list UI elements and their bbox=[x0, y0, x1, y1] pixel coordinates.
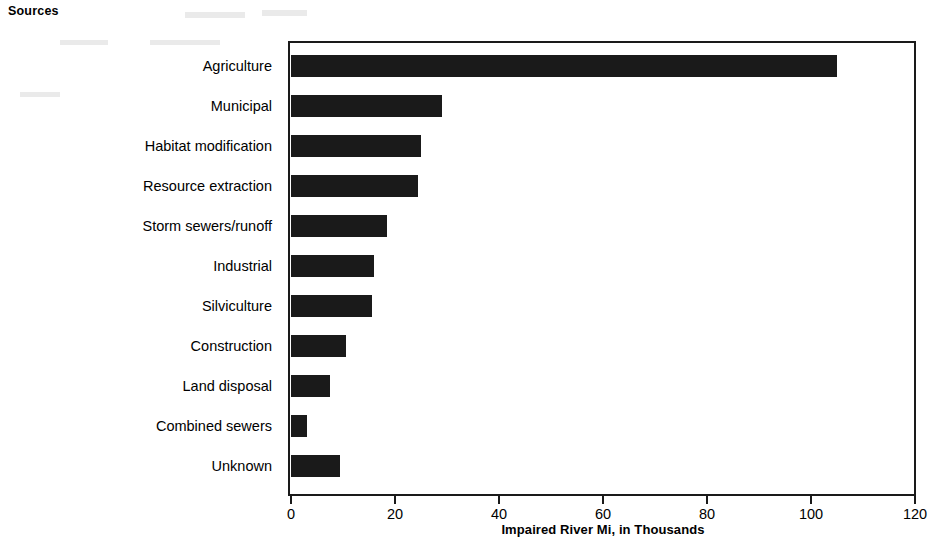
bar-row bbox=[291, 46, 915, 86]
bar bbox=[291, 95, 442, 117]
x-axis-title: Impaired River Mi, in Thousands bbox=[291, 522, 915, 537]
category-axis-labels: AgricultureMunicipalHabitat modification… bbox=[0, 43, 281, 494]
category-label: Storm sewers/runoff bbox=[0, 206, 281, 246]
x-tick-mark bbox=[914, 496, 916, 504]
x-tick-mark bbox=[706, 496, 708, 504]
x-tick-mark bbox=[498, 496, 500, 504]
bar bbox=[291, 415, 307, 437]
bar-row bbox=[291, 326, 915, 366]
category-label: Industrial bbox=[0, 246, 281, 286]
bar bbox=[291, 255, 374, 277]
x-tick-mark bbox=[394, 496, 396, 504]
category-label: Resource extraction bbox=[0, 166, 281, 206]
x-tick-label: 60 bbox=[595, 506, 611, 522]
category-label: Land disposal bbox=[0, 366, 281, 406]
bar bbox=[291, 215, 387, 237]
bar-row bbox=[291, 206, 915, 246]
scan-artifact bbox=[262, 10, 307, 16]
x-tick-label: 20 bbox=[387, 506, 403, 522]
bar-row bbox=[291, 366, 915, 406]
category-label: Agriculture bbox=[0, 46, 281, 86]
bars-container bbox=[291, 43, 915, 494]
bar bbox=[291, 295, 372, 317]
bar bbox=[291, 135, 421, 157]
bar bbox=[291, 335, 346, 357]
bar-row bbox=[291, 406, 915, 446]
category-label: Unknown bbox=[0, 446, 281, 486]
category-label: Silviculture bbox=[0, 286, 281, 326]
category-label: Municipal bbox=[0, 86, 281, 126]
bar bbox=[291, 455, 340, 477]
scan-artifact bbox=[185, 12, 245, 18]
x-tick-label: 100 bbox=[799, 506, 823, 522]
x-tick-mark bbox=[602, 496, 604, 504]
bar-row bbox=[291, 446, 915, 486]
category-label: Habitat modification bbox=[0, 126, 281, 166]
x-tick-mark bbox=[290, 496, 292, 504]
bar bbox=[291, 375, 330, 397]
x-tick-label: 120 bbox=[903, 506, 927, 522]
bar-row bbox=[291, 86, 915, 126]
x-tick-label: 0 bbox=[287, 506, 295, 522]
bar bbox=[291, 175, 418, 197]
bar bbox=[291, 55, 837, 77]
x-tick-mark bbox=[810, 496, 812, 504]
category-label: Construction bbox=[0, 326, 281, 366]
x-tick-label: 40 bbox=[491, 506, 507, 522]
bar-row bbox=[291, 286, 915, 326]
x-tick-label: 80 bbox=[699, 506, 715, 522]
bar-row bbox=[291, 126, 915, 166]
bar-row bbox=[291, 246, 915, 286]
bar-chart-figure: Sources AgricultureMunicipalHabitat modi… bbox=[0, 0, 935, 546]
category-label: Combined sewers bbox=[0, 406, 281, 446]
bar-row bbox=[291, 166, 915, 206]
chart-corner-title: Sources bbox=[8, 4, 59, 18]
